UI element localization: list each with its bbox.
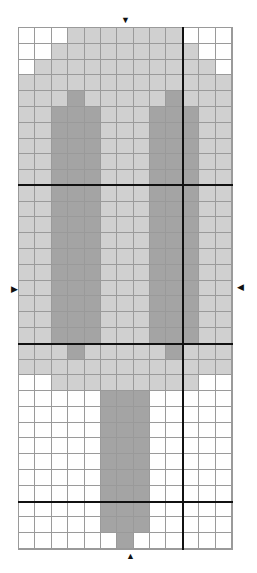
grid-cell (35, 533, 51, 549)
grid-cell (35, 233, 51, 249)
grid-cell (199, 296, 215, 312)
grid-cell (199, 281, 215, 297)
grid-cell (68, 407, 84, 423)
grid-cell (166, 91, 182, 107)
grid-cell (35, 328, 51, 344)
grid-cell (117, 281, 133, 297)
grid-cell (19, 344, 35, 360)
grid-cell (166, 154, 182, 170)
top-center-marker-icon: ▼ (121, 16, 130, 25)
grid-cell (52, 123, 68, 139)
grid-cell (183, 186, 199, 202)
grid-cell (166, 502, 182, 518)
grid-cell (68, 154, 84, 170)
grid-cell (19, 454, 35, 470)
grid-cell (199, 517, 215, 533)
grid-cell (199, 154, 215, 170)
grid-cell (19, 281, 35, 297)
grid-cell (166, 533, 182, 549)
grid-cell (166, 265, 182, 281)
grid-cell (216, 486, 232, 502)
grid-cell (166, 470, 182, 486)
grid-cell (52, 60, 68, 76)
grid-cell (68, 486, 84, 502)
grid-cell (216, 470, 232, 486)
grid-cell (68, 249, 84, 265)
grid-cell (117, 139, 133, 155)
grid-cell (68, 202, 84, 218)
grid-cell (150, 423, 166, 439)
grid-cell (166, 28, 182, 44)
grid-cell (35, 249, 51, 265)
grid-cell (35, 486, 51, 502)
grid-cell (183, 375, 199, 391)
grid-cell (85, 423, 101, 439)
grid-cell (117, 123, 133, 139)
grid-cell (150, 107, 166, 123)
grid-cell (199, 265, 215, 281)
grid-cell (216, 407, 232, 423)
grid-cell (68, 438, 84, 454)
grid-cell (216, 423, 232, 439)
grid-cell (150, 233, 166, 249)
grid-cell (117, 533, 133, 549)
grid-cell (101, 281, 117, 297)
thick-horizontal-line (18, 184, 233, 186)
grid-cell (52, 328, 68, 344)
grid-cell (134, 328, 150, 344)
grid-cell (52, 312, 68, 328)
grid-cell (117, 360, 133, 376)
grid-cell (150, 470, 166, 486)
grid-cell (199, 28, 215, 44)
grid-cell (68, 139, 84, 155)
bottom-center-marker-icon: ▲ (126, 552, 135, 561)
grid-cell (199, 249, 215, 265)
grid-cell (199, 375, 215, 391)
grid-cell (117, 202, 133, 218)
grid-cell (166, 517, 182, 533)
grid-cell (183, 281, 199, 297)
grid-cell (117, 91, 133, 107)
grid-cell (19, 486, 35, 502)
grid-cell (199, 123, 215, 139)
grid-cell (35, 91, 51, 107)
grid-cell (52, 265, 68, 281)
grid-cell (134, 28, 150, 44)
grid-cell (183, 233, 199, 249)
grid-cell (183, 391, 199, 407)
thick-horizontal-line (18, 343, 233, 345)
grid-cell (68, 265, 84, 281)
grid-cell (199, 44, 215, 60)
grid-cell (216, 91, 232, 107)
grid-cell (183, 154, 199, 170)
grid-cell (134, 44, 150, 60)
grid-cell (183, 360, 199, 376)
grid-cell (117, 486, 133, 502)
grid-cell (35, 470, 51, 486)
grid-cell (166, 486, 182, 502)
grid-cell (134, 438, 150, 454)
grid-cell (101, 470, 117, 486)
grid-cell (19, 154, 35, 170)
grid-cell (101, 296, 117, 312)
grid-cell (216, 249, 232, 265)
grid-cell (166, 360, 182, 376)
grid-cell (35, 202, 51, 218)
grid-cell (117, 328, 133, 344)
grid-cell (150, 438, 166, 454)
grid-cell (134, 391, 150, 407)
grid-cell (134, 75, 150, 91)
grid-cell (19, 217, 35, 233)
grid-cell (117, 60, 133, 76)
grid-cell (134, 265, 150, 281)
grid-cell (101, 217, 117, 233)
grid-cell (216, 533, 232, 549)
grid-cell (183, 296, 199, 312)
grid-cell (117, 75, 133, 91)
grid-cell (52, 202, 68, 218)
grid-cell (85, 107, 101, 123)
grid-cell (134, 486, 150, 502)
grid-cell (166, 107, 182, 123)
grid-cell (85, 202, 101, 218)
grid-cell (35, 312, 51, 328)
